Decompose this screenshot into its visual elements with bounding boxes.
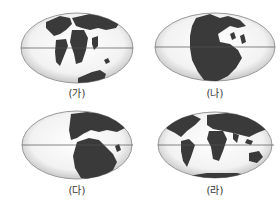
world-map-ga-icon <box>20 12 135 85</box>
panel-label-na: (나) <box>185 88 245 100</box>
world-map-da-icon <box>21 110 135 182</box>
panel-label-ga: (가) <box>47 88 107 100</box>
map-panel-ra <box>157 111 275 181</box>
world-map-na-icon <box>154 12 276 84</box>
panel-label-ra: (라) <box>185 185 245 197</box>
world-map-ra-icon <box>157 111 275 181</box>
map-panel-na <box>154 12 276 84</box>
map-panel-ga <box>20 12 135 85</box>
panel-label-da: (다) <box>47 185 107 197</box>
map-panel-da <box>21 110 135 182</box>
